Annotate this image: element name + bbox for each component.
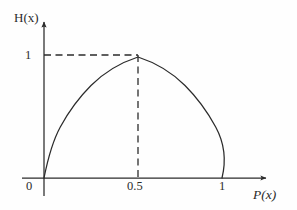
y-tick-label-1: 1 — [25, 49, 31, 62]
x-axis-label: P(x) — [253, 188, 276, 202]
x-tick-label-0: 0 — [26, 180, 32, 193]
plot-canvas — [0, 0, 297, 210]
binary-entropy-chart: H(x) P(x) 1 0 0.5 1 — [0, 0, 297, 210]
x-tick-label-1: 1 — [219, 180, 225, 193]
x-tick-label-0point5: 0.5 — [127, 180, 143, 193]
entropy-curve — [44, 57, 224, 178]
y-axis-label: H(x) — [14, 11, 39, 24]
